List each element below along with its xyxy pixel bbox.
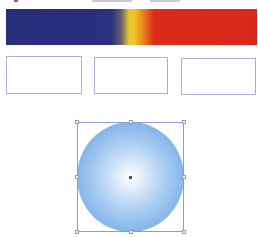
- caption-fragment: [150, 0, 180, 2]
- linear-gradient-bar[interactable]: [6, 9, 257, 45]
- handle-top-right[interactable]: [182, 120, 186, 124]
- swatch-rectangle-3[interactable]: [181, 58, 256, 95]
- handle-middle-right[interactable]: [182, 175, 186, 179]
- handle-top-center[interactable]: [129, 120, 133, 124]
- handle-bottom-right[interactable]: [182, 230, 186, 234]
- handle-middle-left[interactable]: [75, 175, 79, 179]
- caption-fragment: [92, 0, 132, 2]
- cropped-caption-sliver: [0, 0, 258, 4]
- caption-fragment: [14, 0, 18, 2]
- swatch-rectangle-1[interactable]: [6, 56, 82, 94]
- handle-top-left[interactable]: [75, 120, 79, 124]
- center-point-icon: [129, 176, 132, 179]
- swatch-rectangle-2[interactable]: [94, 57, 168, 94]
- handle-bottom-center[interactable]: [129, 230, 133, 234]
- handle-bottom-left[interactable]: [75, 230, 79, 234]
